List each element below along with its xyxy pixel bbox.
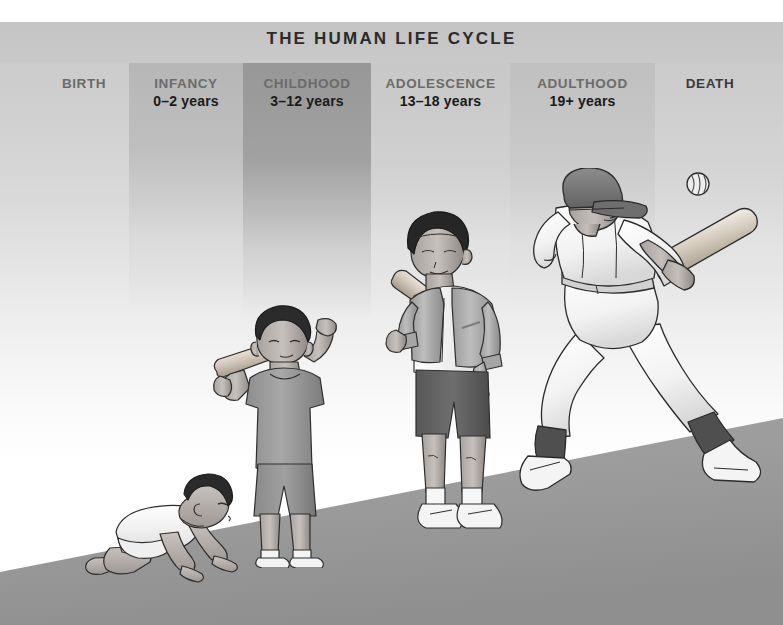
stage-label-adolescence: ADOLESCENCE xyxy=(371,76,510,91)
life-cycle-poster: THE HUMAN LIFE CYCLE BIRTH INFANCY 0–2 y… xyxy=(0,0,783,625)
stage-age-adolescence: 13–18 years xyxy=(371,93,510,109)
stage-age-childhood: 3–12 years xyxy=(243,93,371,109)
stage-label-childhood: CHILDHOOD xyxy=(243,76,371,91)
stage-label-adulthood: ADULTHOOD xyxy=(510,76,655,91)
stage-label-death: DEATH xyxy=(655,76,765,91)
figure-baseball xyxy=(684,170,712,198)
page-title: THE HUMAN LIFE CYCLE xyxy=(0,29,783,49)
figure-child-with-bat xyxy=(206,300,356,568)
stage-label-birth: BIRTH xyxy=(24,76,144,91)
stage-age-infancy: 0–2 years xyxy=(129,93,243,109)
stage-age-adulthood: 19+ years xyxy=(510,93,655,109)
figure-adult-batter xyxy=(508,168,783,513)
stage-label-infancy: INFANCY xyxy=(129,76,243,91)
